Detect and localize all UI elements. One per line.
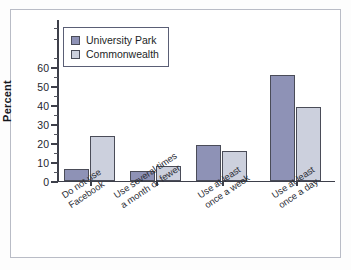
- bar-university-park-at-least-once-a-week: [196, 145, 221, 181]
- legend-swatch-university-park-icon: [71, 36, 80, 45]
- legend-label-commonwealth: Commonwealth: [86, 48, 159, 60]
- y-tick-label-10: 10: [25, 158, 49, 169]
- y-tick-label-40: 40: [25, 101, 49, 112]
- chart-legend: University Park Commonwealth: [63, 27, 169, 67]
- y-tick-label-50: 50: [25, 82, 49, 93]
- y-tick-label-0: 0: [25, 177, 49, 188]
- y-tick-label-30: 30: [25, 120, 49, 131]
- legend-swatch-commonwealth-icon: [71, 50, 80, 59]
- bar-university-park-at-least-once-a-day: [270, 75, 295, 181]
- y-axis-title: Percent: [1, 80, 13, 122]
- y-tick-label-20: 20: [25, 139, 49, 150]
- bar-chart-figure: 0 10 20 30 40 50 60 Percent Do not use F…: [0, 0, 351, 270]
- legend-label-university-park: University Park: [86, 34, 157, 46]
- legend-item-university-park: University Park: [71, 33, 159, 47]
- legend-item-commonwealth: Commonwealth: [71, 47, 159, 61]
- y-tick-label-60: 60: [25, 63, 49, 74]
